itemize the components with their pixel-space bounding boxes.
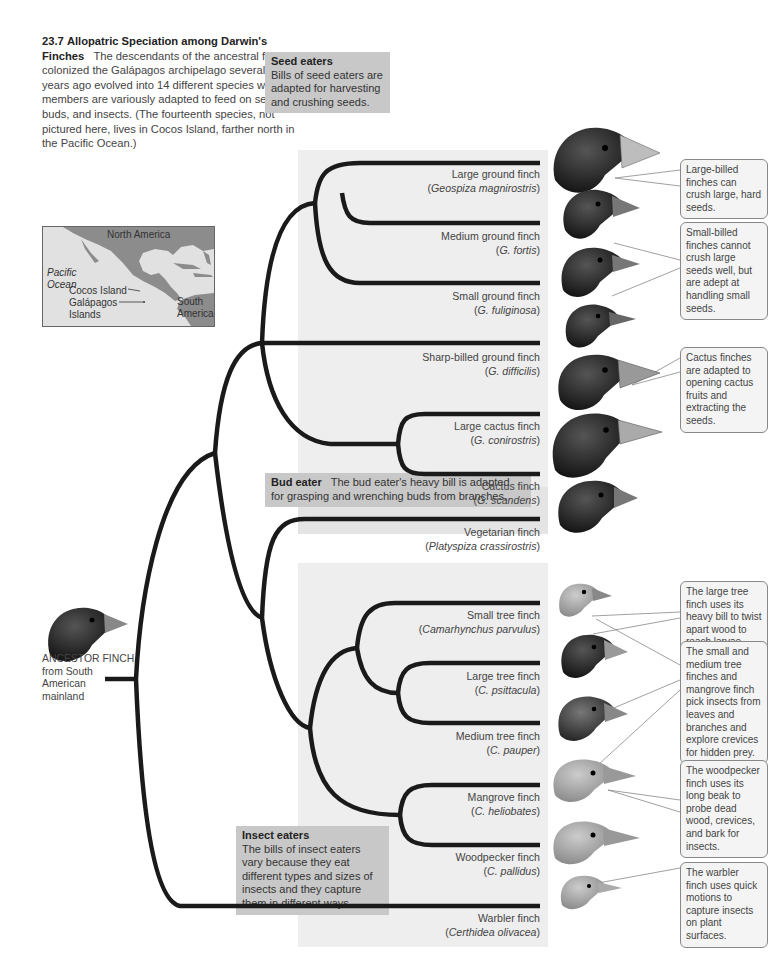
species-common-name: Large cactus finch bbox=[454, 420, 540, 432]
note-small-billed: Small-billed finches cannot crush large … bbox=[680, 222, 768, 320]
ancestor-finch-label: ANCESTOR FINCH from South American mainl… bbox=[42, 653, 134, 703]
finch-head-icon-small-tree bbox=[559, 584, 612, 617]
seed-eaters-title: Seed eaters bbox=[271, 55, 333, 67]
note-warbler: The warbler finch uses quick motions to … bbox=[680, 862, 768, 948]
note-large-billed: Large-billed finches can crush large, ha… bbox=[680, 159, 768, 219]
finch-head-icon-woodpecker bbox=[553, 822, 640, 865]
galapagos-line2: Islands bbox=[69, 309, 101, 320]
finch-head-icon-large-ground bbox=[554, 128, 660, 193]
finch-head-icon-mangrove bbox=[553, 760, 636, 802]
figure-number: 23.7 bbox=[42, 35, 64, 47]
ancestor-line4: mainland bbox=[42, 691, 84, 702]
species-label: Small tree finch(Camarhynchus parvulus) bbox=[419, 609, 540, 636]
species-common-name: Cactus finch bbox=[482, 480, 540, 492]
species-common-name: Medium ground finch bbox=[441, 230, 540, 242]
map-label-galapagos: Galápagos Islands bbox=[69, 297, 117, 320]
species-label: Small ground finch(G. fuliginosa) bbox=[452, 290, 540, 317]
species-common-name: Large tree finch bbox=[466, 670, 540, 682]
species-common-name: Large ground finch bbox=[452, 168, 540, 180]
species-scientific-name: C. heliobates bbox=[475, 805, 537, 817]
finch-head-icon-medium-tree bbox=[558, 697, 628, 741]
finch-head-icon-large-cactus bbox=[558, 355, 660, 410]
bud-eater-title: Bud eater bbox=[271, 476, 322, 488]
ancestor-line1: ANCESTOR FINCH bbox=[42, 653, 134, 664]
finch-head-icon-vegetarian bbox=[558, 481, 638, 533]
map-label-cocos-island: Cocos Island bbox=[69, 285, 127, 297]
ancestor-line2: from South bbox=[42, 666, 93, 677]
species-scientific-name: C. psittacula bbox=[478, 684, 536, 696]
species-label: Mangrove finch(C. heliobates) bbox=[468, 791, 540, 818]
species-common-name: Warbler finch bbox=[478, 912, 540, 924]
species-common-name: Small tree finch bbox=[467, 609, 540, 621]
species-label: Vegetarian finch(Platyspiza crassirostri… bbox=[425, 526, 540, 553]
species-label: Medium ground finch(G. fortis) bbox=[441, 230, 540, 257]
seed-eaters-label: Seed eaters Bills of seed eaters are ada… bbox=[265, 52, 390, 113]
species-label: Large cactus finch(G. conirostris) bbox=[454, 420, 540, 447]
finch-head-icon-sharp-billed bbox=[566, 305, 636, 348]
species-common-name: Woodpecker finch bbox=[455, 851, 540, 863]
species-label: Warbler finch(Certhidea olivacea) bbox=[445, 912, 540, 939]
species-scientific-name: Geospiza magnirostris bbox=[431, 182, 536, 194]
species-common-name: Vegetarian finch bbox=[464, 526, 540, 538]
species-common-name: Sharp-billed ground finch bbox=[422, 351, 540, 363]
species-label: Large ground finch(Geospiza magnirostris… bbox=[428, 168, 540, 195]
species-label: Sharp-billed ground finch(G. difficilis) bbox=[422, 351, 540, 378]
note-small-medium-mangrove: The small and medium tree finches and ma… bbox=[680, 641, 768, 764]
species-scientific-name: Certhidea olivacea bbox=[449, 926, 537, 938]
map-label-north-america: North America bbox=[107, 229, 170, 241]
species-scientific-name: G. conirostris bbox=[474, 434, 536, 446]
finch-head-icon-warbler bbox=[561, 876, 622, 909]
species-scientific-name: C. pauper bbox=[490, 744, 537, 756]
insect-eaters-text: The bills of insect eaters vary because … bbox=[242, 843, 373, 909]
insect-eaters-title: Insect eaters bbox=[242, 829, 309, 841]
branch-root-upper bbox=[136, 453, 215, 679]
south-america-line1: South bbox=[177, 296, 203, 307]
map-label-south-america: South America bbox=[177, 296, 214, 319]
finch-head-icon-small-ground bbox=[562, 248, 640, 297]
species-common-name: Mangrove finch bbox=[468, 791, 540, 803]
pacific-ocean-line1: Pacific bbox=[47, 267, 76, 278]
species-common-name: Medium tree finch bbox=[456, 730, 540, 742]
ancestor-line3: American bbox=[42, 678, 86, 689]
species-scientific-name: Platyspiza crassirostris bbox=[429, 540, 537, 552]
species-label: Medium tree finch(C. pauper) bbox=[456, 730, 540, 757]
species-label: Cactus finch(G. scandens) bbox=[473, 480, 540, 507]
south-america-line2: America bbox=[177, 308, 214, 319]
species-scientific-name: Camarhynchus parvulus bbox=[422, 623, 536, 635]
note-woodpecker: The woodpecker finch uses its long beak … bbox=[680, 760, 768, 858]
finch-head-icon-medium-ground bbox=[563, 190, 640, 239]
galapagos-map: North America Pacific Ocean Cocos Island… bbox=[42, 226, 215, 327]
species-label: Large tree finch(C. psittacula) bbox=[466, 670, 540, 697]
finch-head-icon-cactus bbox=[553, 414, 662, 478]
species-scientific-name: G. fuliginosa bbox=[478, 304, 537, 316]
species-label: Woodpecker finch(C. pallidus) bbox=[455, 851, 540, 878]
species-scientific-name: G. difficilis bbox=[488, 365, 536, 377]
species-common-name: Small ground finch bbox=[452, 290, 540, 302]
species-scientific-name: G. scandens bbox=[477, 494, 536, 506]
insect-eaters-label: Insect eaters The bills of insect eaters… bbox=[236, 826, 389, 915]
seed-eaters-text: Bills of seed eaters are adapted for har… bbox=[271, 69, 383, 108]
galapagos-line1: Galápagos bbox=[69, 297, 117, 308]
species-scientific-name: G. fortis bbox=[499, 244, 536, 256]
note-cactus: Cactus finches are adapted to opening ca… bbox=[680, 347, 768, 433]
finch-head-icon-large-tree bbox=[561, 635, 628, 678]
species-scientific-name: C. pallidus bbox=[487, 865, 536, 877]
